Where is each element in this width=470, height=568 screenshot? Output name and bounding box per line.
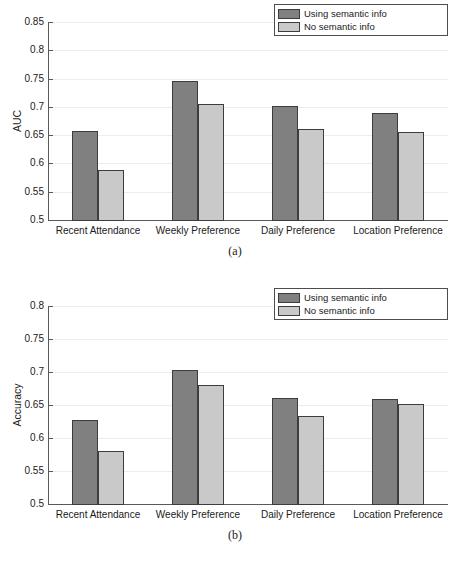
legend-label: No semantic info: [304, 22, 375, 32]
x-tick-label: Weekly Preference: [148, 509, 248, 520]
gridline-y: [48, 50, 448, 51]
chart-panel-b: 0.50.550.60.650.70.750.8AccuracyRecent A…: [0, 284, 470, 568]
bar-a-2-1: [298, 129, 324, 221]
bar-b-0-1: [98, 451, 124, 505]
y-tick-mark: [49, 220, 53, 221]
y-tick-label: 0.55: [2, 187, 44, 197]
y-axis-title: Accuracy: [12, 383, 23, 426]
bar-a-0-0: [72, 131, 98, 221]
legend-item: Using semantic info: [278, 8, 443, 19]
y-tick-label: 0.65: [2, 130, 44, 140]
gridline-y: [48, 79, 448, 80]
legend-swatch-1: [278, 22, 300, 32]
legend-label: No semantic info: [304, 306, 375, 316]
legend-item: No semantic info: [278, 305, 443, 316]
y-tick-label: 0.5: [2, 499, 44, 509]
y-tick-label: 0.8: [2, 45, 44, 55]
legend-swatch-0: [278, 9, 300, 19]
bar-a-3-0: [372, 113, 398, 221]
y-tick-mark: [49, 471, 53, 472]
legend-swatch-0: [278, 293, 300, 303]
y-tick-mark: [49, 163, 53, 164]
y-tick-mark: [49, 372, 53, 373]
bar-b-2-0: [272, 398, 298, 505]
y-tick-mark: [49, 306, 53, 307]
legend-a: Using semantic infoNo semantic info: [274, 4, 448, 36]
bar-b-1-0: [172, 370, 198, 505]
y-tick-label: 0.75: [2, 334, 44, 344]
bar-a-1-0: [172, 81, 198, 221]
bar-b-3-0: [372, 399, 398, 505]
x-tick-label: Location Preference: [348, 225, 448, 236]
x-tick-label: Recent Attendance: [48, 509, 148, 520]
gridline-y: [48, 339, 448, 340]
legend-item: Using semantic info: [278, 292, 443, 303]
legend-label: Using semantic info: [304, 9, 387, 19]
y-tick-mark: [49, 405, 53, 406]
y-tick-label: 0.8: [2, 301, 44, 311]
bar-a-0-1: [98, 170, 124, 221]
bar-b-2-1: [298, 416, 324, 505]
y-tick-mark: [49, 50, 53, 51]
y-tick-label: 0.6: [2, 158, 44, 168]
x-tick-label: Daily Preference: [248, 225, 348, 236]
bar-b-1-1: [198, 385, 224, 505]
x-tick-label: Weekly Preference: [148, 225, 248, 236]
y-tick-mark: [49, 504, 53, 505]
legend-swatch-1: [278, 306, 300, 316]
panel-caption-b: (b): [0, 528, 470, 543]
y-axis-title: AUC: [12, 110, 23, 132]
y-tick-mark: [49, 438, 53, 439]
chart-panel-a: 0.50.550.60.650.70.750.80.85AUCRecent At…: [0, 0, 470, 284]
y-tick-label: 0.65: [2, 400, 44, 410]
legend-item: No semantic info: [278, 21, 443, 32]
y-tick-mark: [49, 22, 53, 23]
y-tick-label: 0.75: [2, 74, 44, 84]
bar-a-2-0: [272, 106, 298, 221]
y-tick-mark: [49, 135, 53, 136]
y-tick-label: 0.7: [2, 367, 44, 377]
legend-label: Using semantic info: [304, 293, 387, 303]
legend-b: Using semantic infoNo semantic info: [274, 288, 448, 320]
y-tick-label: 0.6: [2, 433, 44, 443]
gridline-y: [48, 372, 448, 373]
y-tick-mark: [49, 339, 53, 340]
bar-b-0-0: [72, 420, 98, 505]
gridline-y: [48, 107, 448, 108]
bar-b-3-1: [398, 404, 424, 505]
bar-a-3-1: [398, 132, 424, 221]
y-tick-mark: [49, 107, 53, 108]
x-tick-label: Recent Attendance: [48, 225, 148, 236]
x-tick-label: Location Preference: [348, 509, 448, 520]
y-tick-label: 0.7: [2, 102, 44, 112]
panel-caption-a: (a): [0, 244, 470, 259]
y-tick-label: 0.55: [2, 466, 44, 476]
x-tick-label: Daily Preference: [248, 509, 348, 520]
y-tick-label: 0.5: [2, 215, 44, 225]
bar-a-1-1: [198, 104, 224, 221]
y-tick-mark: [49, 192, 53, 193]
y-tick-mark: [49, 79, 53, 80]
figure-container: 0.50.550.60.650.70.750.80.85AUCRecent At…: [0, 0, 470, 568]
y-tick-label: 0.85: [2, 17, 44, 27]
